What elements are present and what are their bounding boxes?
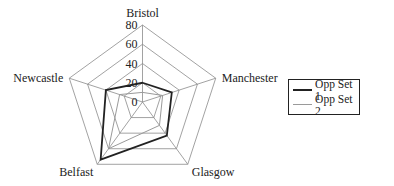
legend: Opp Set 1 Opp Set 2 — [288, 79, 360, 115]
category-label-newcastle: Newcastle — [13, 71, 63, 85]
legend-label-opp-set-2: Opp Set 2 — [315, 93, 355, 117]
legend-swatch-opp-set-1 — [293, 89, 312, 91]
tick-label: 20 — [126, 76, 138, 90]
tick-label: 40 — [126, 57, 138, 71]
tick-label: 60 — [126, 37, 138, 51]
category-label-glasgow: Glasgow — [192, 165, 235, 179]
category-label-manchester: Manchester — [222, 71, 278, 85]
tick-label: 80 — [126, 18, 138, 32]
category-label-bristol: Bristol — [126, 6, 159, 20]
axis-ticks: 020406080 — [126, 18, 138, 109]
category-label-belfast: Belfast — [59, 165, 94, 179]
axis-spoke — [143, 78, 216, 102]
legend-item-opp-set-2: Opp Set 2 — [293, 97, 355, 112]
legend-swatch-opp-set-2 — [293, 104, 312, 105]
tick-label: 0 — [132, 95, 138, 109]
